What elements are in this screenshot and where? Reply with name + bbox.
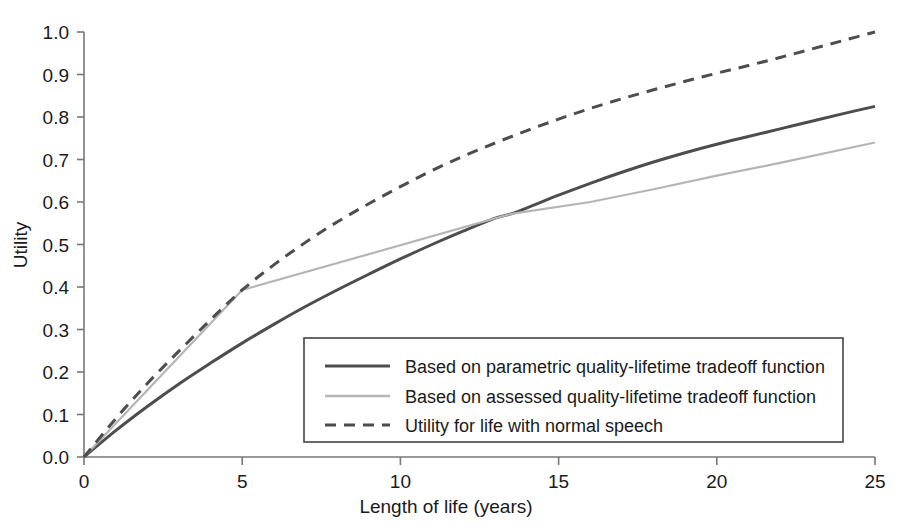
x-tick-label: 0 (79, 471, 90, 492)
y-tick-label: 1.0 (43, 22, 69, 43)
legend-label-normal-speech: Utility for life with normal speech (405, 416, 663, 436)
y-tick-label: 0.8 (43, 107, 69, 128)
y-tick-label: 0.7 (43, 150, 69, 171)
y-axis-title: Utility (10, 221, 31, 268)
y-tick-label: 0.9 (43, 65, 69, 86)
y-tick-label: 0.1 (43, 405, 69, 426)
x-tick-label: 25 (864, 471, 885, 492)
x-tick-label: 5 (237, 471, 248, 492)
legend-label-assessed: Based on assessed quality-lifetime trade… (405, 387, 816, 407)
utility-vs-length-of-life-chart: 0.00.10.20.30.40.50.60.70.80.91.0 051015… (0, 0, 901, 531)
y-tick-label: 0.6 (43, 192, 69, 213)
y-tick-label: 0.2 (43, 362, 69, 383)
y-tick-label: 0.3 (43, 320, 69, 341)
x-tick-label: 20 (706, 471, 727, 492)
chart-container: 0.00.10.20.30.40.50.60.70.80.91.0 051015… (0, 0, 901, 531)
y-tick-label: 0.5 (43, 235, 69, 256)
y-tick-label: 0.4 (43, 277, 70, 298)
chart-background (0, 0, 901, 531)
x-tick-label: 10 (390, 471, 411, 492)
x-axis-title: Length of life (years) (359, 496, 532, 517)
x-tick-label: 15 (548, 471, 569, 492)
legend-label-parametric: Based on parametric quality-lifetime tra… (405, 357, 825, 377)
chart-legend: Based on parametric quality-lifetime tra… (304, 338, 843, 442)
y-tick-label: 0.0 (43, 447, 69, 468)
